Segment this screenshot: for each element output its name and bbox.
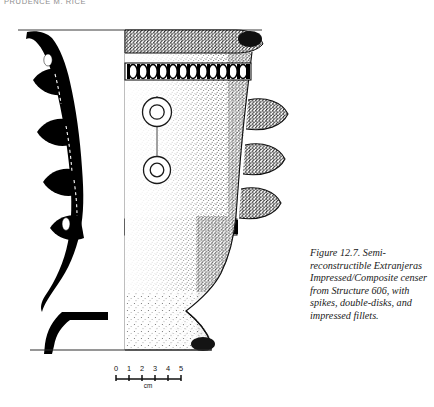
double-disk-upper xyxy=(143,98,172,127)
profile-spike-2 xyxy=(37,119,74,146)
exterior-spike-2 xyxy=(243,144,285,175)
scale-unit-label: cm xyxy=(144,382,153,389)
exterior-spikes xyxy=(239,99,288,219)
scale-tick-label: 5 xyxy=(179,364,183,373)
double-disk-lower xyxy=(144,157,171,184)
profile-spike-1 xyxy=(33,68,68,95)
scale-bar: 0 1 2 3 4 5 cm xyxy=(112,362,196,392)
pedestal-foot-pad xyxy=(191,337,215,351)
scale-bar-tick-labels: 0 1 2 3 4 5 xyxy=(114,364,183,373)
profile-fillet-lower xyxy=(62,218,70,231)
vessel-exterior-elevation xyxy=(120,26,288,354)
scale-tick-label: 3 xyxy=(153,364,157,373)
running-head: PRUDENCE M. RICE xyxy=(4,0,86,6)
scale-tick-label: 0 xyxy=(114,364,118,373)
scale-tick-label: 2 xyxy=(140,364,144,373)
scale-tick-label: 4 xyxy=(166,364,170,373)
exterior-spike-1 xyxy=(246,99,288,130)
profile-fillet-upper xyxy=(44,54,52,66)
vessel-cross-section-profile xyxy=(26,31,108,354)
book-page: PRUDENCE M. RICE xyxy=(0,0,434,407)
scale-bar-ruler xyxy=(116,375,181,381)
figure-illustration xyxy=(0,8,320,358)
figure-caption: Figure 12.7. Semi-reconstructible Extran… xyxy=(310,247,430,323)
scale-tick-label: 1 xyxy=(127,364,131,373)
exterior-spike-3 xyxy=(239,188,281,219)
impressed-fillet-band-upper xyxy=(125,63,251,80)
